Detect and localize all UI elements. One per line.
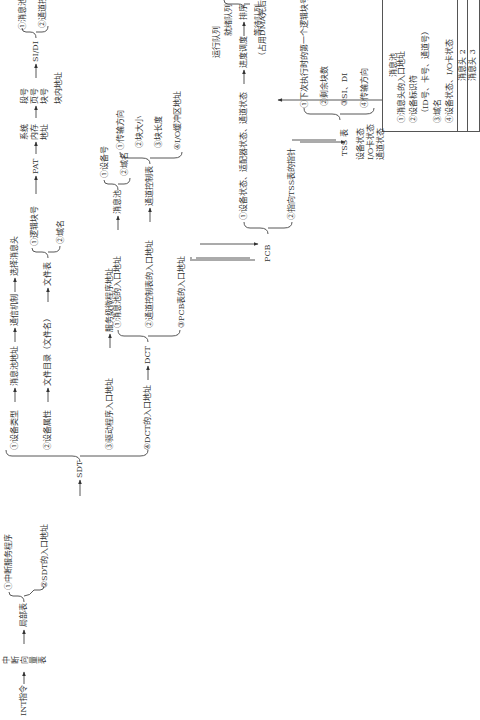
overlay-layer: [0, 0, 479, 720]
